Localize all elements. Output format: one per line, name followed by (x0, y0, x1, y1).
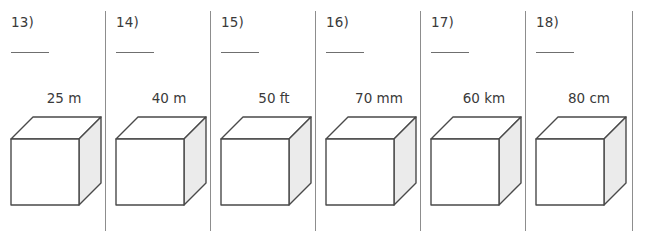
cube-icon (430, 110, 522, 210)
panel-divider-line-end (632, 11, 633, 231)
cube-figure: 80 cm (535, 92, 627, 214)
cube-icon (10, 110, 102, 210)
problem-panel-row: 13) 25 m 14) 40 m (0, 0, 649, 242)
cube-icon (220, 110, 312, 210)
answer-blank-line[interactable] (221, 52, 259, 53)
panel-divider-line (420, 11, 421, 231)
problem-number: 15) (221, 16, 244, 30)
answer-blank-line[interactable] (11, 52, 49, 53)
cube-icon (535, 110, 627, 210)
problem-panel-15: 15) 50 ft (210, 0, 315, 242)
answer-blank-line[interactable] (536, 52, 574, 53)
cube-figure: 50 ft (220, 92, 312, 214)
answer-blank-line[interactable] (116, 52, 154, 53)
problem-number: 14) (116, 16, 139, 30)
cube-figure: 60 km (430, 92, 522, 214)
cube-dimension-label: 50 ft (220, 92, 312, 106)
cube-dimension-label: 70 mm (325, 92, 417, 106)
cube-icon (325, 110, 417, 210)
problem-number: 18) (536, 16, 559, 30)
answer-blank-line[interactable] (431, 52, 469, 53)
panel-divider-line (210, 11, 211, 231)
cube-figure: 70 mm (325, 92, 417, 214)
panel-divider-line (315, 11, 316, 231)
cube-figure: 25 m (10, 92, 102, 214)
cube-dimension-label: 80 cm (535, 92, 627, 106)
problem-number: 13) (11, 16, 34, 30)
answer-blank-line[interactable] (326, 52, 364, 53)
problem-panel-16: 16) 70 mm (315, 0, 420, 242)
problem-panel-17: 17) 60 km (420, 0, 525, 242)
problem-number: 17) (431, 16, 454, 30)
problem-number: 16) (326, 16, 349, 30)
cube-figure: 40 m (115, 92, 207, 214)
worksheet-sheet: 13) 25 m 14) 40 m (0, 0, 649, 242)
cube-dimension-label: 25 m (10, 92, 102, 106)
problem-panel-13: 13) 25 m (0, 0, 105, 242)
cube-icon (115, 110, 207, 210)
panel-divider-line (525, 11, 526, 231)
cube-dimension-label: 40 m (115, 92, 207, 106)
cube-dimension-label: 60 km (430, 92, 522, 106)
problem-panel-14: 14) 40 m (105, 0, 210, 242)
problem-panel-18: 18) 80 cm (525, 0, 630, 242)
panel-divider-line (105, 11, 106, 231)
